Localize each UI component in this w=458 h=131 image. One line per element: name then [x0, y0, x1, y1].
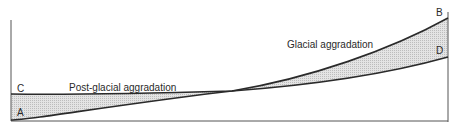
- label-point-d: D: [436, 46, 443, 56]
- label-point-a: A: [17, 108, 24, 118]
- label-point-b: B: [436, 8, 443, 18]
- diagram-graphic: [0, 0, 458, 131]
- label-point-c: C: [17, 84, 24, 94]
- aggradation-diagram: C A B D Post-glacial aggradation Glacial…: [0, 0, 458, 131]
- label-glacial-aggradation: Glacial aggradation: [287, 40, 373, 50]
- label-post-glacial-aggradation: Post-glacial aggradation: [69, 83, 176, 93]
